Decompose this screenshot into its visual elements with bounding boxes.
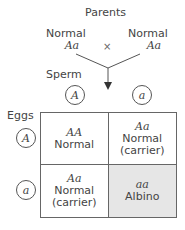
punnett-cell-albino: aa Albino [109,165,177,217]
sperm-label: Sperm [46,68,82,81]
punnett-cell: Aa Normal (carrier) [41,165,109,217]
egg-allele-1: A [16,128,36,148]
sperm-allele-1: A [65,85,85,105]
punnett-cell: Aa Normal (carrier) [109,113,177,165]
egg-allele-2: a [16,180,36,200]
cross-arrow-icon [0,0,185,110]
punnett-square: AA Normal Aa Normal (carrier) Aa Normal … [40,112,177,218]
eggs-label: Eggs [7,109,34,122]
sperm-allele-2: a [132,85,152,105]
punnett-cell: AA Normal [41,113,109,165]
